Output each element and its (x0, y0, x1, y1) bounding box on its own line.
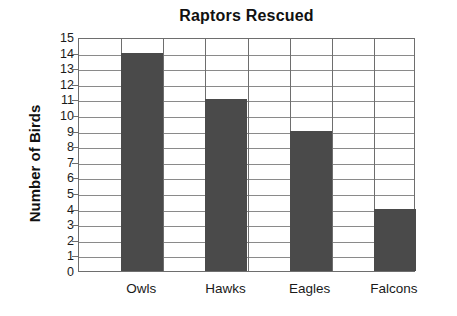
y-tick-label-6: 6 (48, 172, 74, 184)
y-tick-mark-1 (72, 256, 78, 257)
y-tick-mark-3 (72, 225, 78, 226)
y-tick-label-7: 7 (48, 157, 74, 169)
y-tick-label-3: 3 (48, 219, 74, 231)
y-tick-label-9: 9 (48, 126, 74, 138)
bar-owls (121, 53, 163, 271)
y-tick-mark-2 (72, 241, 78, 242)
y-tick-label-5: 5 (48, 188, 74, 200)
y-tick-mark-6 (72, 178, 78, 179)
y-tick-mark-13 (72, 69, 78, 70)
y-tick-label-12: 12 (48, 79, 74, 91)
bar-hawks (205, 99, 247, 271)
vertical-gridline (332, 39, 333, 271)
bar-chart-figure: Raptors Rescued Number of Birds 15141312… (0, 0, 457, 316)
y-tick-label-0: 0 (48, 266, 74, 278)
bar-falcons (374, 209, 416, 271)
y-tick-label-4: 4 (48, 204, 74, 216)
y-tick-label-11: 11 (48, 94, 74, 106)
y-tick-mark-10 (72, 116, 78, 117)
y-tick-mark-7 (72, 163, 78, 164)
chart-title: Raptors Rescued (78, 7, 415, 25)
y-tick-mark-5 (72, 194, 78, 195)
y-tick-label-14: 14 (48, 48, 74, 60)
y-tick-label-13: 13 (48, 63, 74, 75)
y-tick-mark-12 (72, 85, 78, 86)
y-tick-label-1: 1 (48, 250, 74, 262)
y-tick-mark-9 (72, 132, 78, 133)
bar-eagles (290, 131, 332, 271)
y-tick-mark-14 (72, 54, 78, 55)
plot-area (78, 38, 415, 272)
y-tick-label-15: 15 (48, 32, 74, 44)
y-tick-mark-4 (72, 210, 78, 211)
y-tick-mark-11 (72, 100, 78, 101)
vertical-gridline (248, 39, 249, 271)
y-axis-tick-labels: 1514131211109876543210 (44, 38, 74, 272)
y-tick-label-10: 10 (48, 110, 74, 122)
vertical-gridline (163, 39, 164, 271)
y-tick-label-8: 8 (48, 141, 74, 153)
x-axis-label-falcons: Falcons (344, 281, 444, 296)
y-axis-title: Number of Birds (26, 64, 43, 264)
y-tick-label-2: 2 (48, 235, 74, 247)
y-tick-mark-8 (72, 147, 78, 148)
